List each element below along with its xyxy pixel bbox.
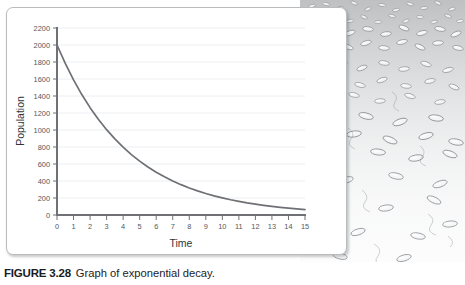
chart-panel: 2200 2000 1800 1600 1400 1200 1000 800 6… bbox=[6, 7, 347, 255]
x-tick-label: 11 bbox=[235, 222, 243, 231]
y-tick-label: 1000 bbox=[34, 126, 50, 135]
y-tick-label: 1600 bbox=[34, 75, 50, 84]
figure-number-label: FIGURE 3.28 bbox=[4, 267, 71, 279]
x-tick-label: 7 bbox=[171, 222, 175, 231]
x-tick-label: 9 bbox=[204, 222, 208, 231]
x-tick-label: 12 bbox=[251, 222, 259, 231]
x-tick-label: 2 bbox=[88, 222, 92, 231]
y-axis-ticks: 2200 2000 1800 1600 1400 1200 1000 800 6… bbox=[34, 24, 57, 220]
y-tick-label: 400 bbox=[38, 177, 50, 186]
figure-caption-text: Graph of exponential decay. bbox=[76, 267, 215, 279]
x-tick-label: 5 bbox=[138, 222, 142, 231]
axes bbox=[57, 28, 305, 215]
y-tick-label: 1800 bbox=[34, 58, 50, 67]
x-axis-title: Time bbox=[170, 237, 193, 249]
x-tick-label: 1 bbox=[71, 222, 75, 231]
y-tick-label: 1400 bbox=[34, 92, 50, 101]
x-tick-label: 4 bbox=[121, 222, 125, 231]
x-tick-label: 8 bbox=[187, 222, 191, 231]
y-tick-label: 800 bbox=[38, 143, 50, 152]
x-tick-label: 15 bbox=[301, 222, 309, 231]
x-tick-label: 6 bbox=[154, 222, 158, 231]
x-tick-label: 3 bbox=[105, 222, 109, 231]
figure-caption: FIGURE 3.28Graph of exponential decay. bbox=[4, 262, 459, 282]
x-axis-ticks: 0 1 2 3 4 5 6 7 8 9 10 11 12 13 14 15 bbox=[55, 215, 309, 231]
y-tick-label: 0 bbox=[46, 211, 50, 220]
y-tick-label: 2000 bbox=[34, 41, 50, 50]
y-tick-label: 1200 bbox=[34, 109, 50, 118]
y-tick-label: 600 bbox=[38, 160, 50, 169]
y-tick-label: 2200 bbox=[34, 24, 50, 33]
x-tick-label: 13 bbox=[268, 222, 276, 231]
x-tick-label: 0 bbox=[55, 222, 59, 231]
figure-page: 2200 2000 1800 1600 1400 1200 1000 800 6… bbox=[0, 0, 465, 285]
y-axis-title: Population bbox=[14, 96, 26, 146]
y-tick-label: 200 bbox=[38, 194, 50, 203]
population-decay-chart: 2200 2000 1800 1600 1400 1200 1000 800 6… bbox=[7, 8, 346, 254]
x-tick-label: 14 bbox=[284, 222, 292, 231]
exponential-decay-curve bbox=[57, 45, 305, 210]
x-tick-label: 10 bbox=[218, 222, 226, 231]
